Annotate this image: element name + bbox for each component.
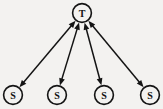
node-s2[interactable]: S (48, 86, 67, 105)
node-s4[interactable]: S (141, 86, 160, 105)
node-label-s3: S (101, 90, 107, 101)
node-s3[interactable]: S (95, 86, 114, 105)
arrowhead-to-t-from-s2 (74, 23, 80, 31)
nodes-layer: TSSSS (4, 4, 160, 105)
diagram-canvas: TSSSS (0, 0, 163, 109)
node-label-s4: S (147, 90, 153, 101)
edge-line-s1-t[interactable] (22, 24, 73, 85)
arrowhead-to-s3-from-t (97, 78, 103, 86)
arrowhead-to-t-from-s3 (84, 23, 90, 31)
node-s1[interactable]: S (4, 86, 23, 105)
graph-svg: TSSSS (0, 0, 163, 109)
node-label-s2: S (54, 90, 60, 101)
arrowhead-to-s2-from-t (59, 78, 65, 86)
node-label-s1: S (10, 90, 16, 101)
edge-line-s3-t[interactable] (86, 26, 101, 81)
node-t[interactable]: T (73, 4, 92, 23)
node-label-t: T (79, 8, 86, 19)
edges-layer (19, 21, 143, 88)
